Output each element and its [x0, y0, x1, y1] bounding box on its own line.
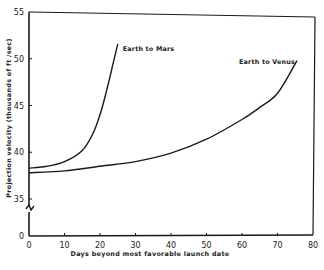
y-tick-label: 50 [14, 55, 24, 64]
axis-break-icon [26, 205, 34, 210]
series-line-earth-to-mars [29, 44, 118, 168]
x-tick-label: 60 [237, 241, 247, 250]
x-tick-label: 20 [95, 241, 105, 250]
x-tick-label: 50 [201, 241, 211, 250]
top-border [29, 12, 315, 17]
series-line-earth-to-venus [29, 61, 297, 173]
chart: 01020304050607080 03540455055 Earth to M… [0, 0, 324, 270]
annotation-earth-to-mars: Earth to Mars [123, 45, 175, 53]
y-tick-label: 55 [14, 8, 24, 17]
y-tick-label: 40 [14, 148, 24, 157]
x-axis-title: Days beyond most favorable launch date [71, 250, 230, 258]
x-tick-label: 40 [166, 241, 176, 250]
x-tick-label: 30 [130, 241, 140, 250]
y-tick-label: 45 [14, 102, 24, 111]
y-tick-label: 35 [14, 195, 24, 204]
y-tick-label: 0 [19, 232, 24, 241]
annotations: Earth to MarsEarth to Venus [123, 45, 295, 66]
right-border [313, 17, 315, 235]
y-axis-title: Projection velocity (thousands of ft /se… [5, 38, 13, 197]
x-tick-label: 70 [272, 241, 282, 250]
x-tick-label: 80 [308, 241, 318, 250]
x-tick-label: 10 [59, 241, 69, 250]
annotation-earth-to-venus: Earth to Venus [239, 58, 295, 66]
x-tick-label: 0 [26, 241, 31, 250]
